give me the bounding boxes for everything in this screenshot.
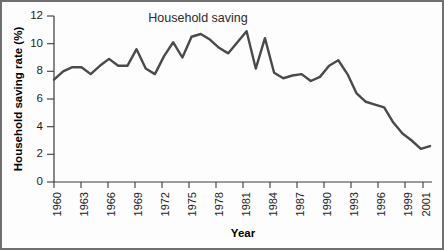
x-tick-label: 1987 — [294, 192, 306, 216]
chart-title: Household saving — [148, 11, 247, 25]
x-tick-label: 1993 — [348, 192, 360, 216]
x-tick-label: 1990 — [321, 192, 333, 216]
x-axis-tick-labels: 1960 1963 1966 1969 1972 1975 1978 1981 … — [51, 192, 432, 216]
y-tick-label: 12 — [30, 9, 43, 21]
x-tick-label: 1978 — [213, 192, 225, 216]
x-tick-label: 1963 — [78, 192, 90, 216]
y-tick-label: 10 — [30, 37, 43, 49]
y-axis-title: Household saving rate (%) — [12, 27, 24, 172]
y-tick-label: 2 — [37, 147, 43, 159]
y-tick-label: 8 — [37, 64, 43, 76]
x-tick-label: 1969 — [132, 192, 144, 216]
data-series-household-saving-rate — [54, 31, 430, 149]
chart-figure: 12 10 8 6 4 2 0 1960 — [0, 0, 444, 250]
x-tick-label: 1960 — [51, 192, 63, 216]
line-chart: 12 10 8 6 4 2 0 1960 — [2, 2, 444, 250]
x-axis-ticks — [54, 182, 423, 188]
x-axis-title: Year — [231, 227, 256, 239]
x-tick-label: 1999 — [402, 192, 414, 216]
y-axis-ticks — [47, 16, 54, 182]
x-tick-label: 2001 — [420, 192, 432, 216]
x-tick-label: 1972 — [159, 192, 171, 216]
x-tick-label: 1984 — [267, 192, 279, 216]
y-tick-label: 6 — [37, 92, 43, 104]
x-tick-label: 1975 — [186, 192, 198, 216]
x-tick-label: 1996 — [375, 192, 387, 216]
y-tick-label: 0 — [37, 175, 43, 187]
x-tick-label: 1966 — [105, 192, 117, 216]
x-tick-label: 1981 — [240, 192, 252, 216]
y-axis-tick-labels: 12 10 8 6 4 2 0 — [30, 9, 43, 187]
y-tick-label: 4 — [37, 120, 44, 132]
